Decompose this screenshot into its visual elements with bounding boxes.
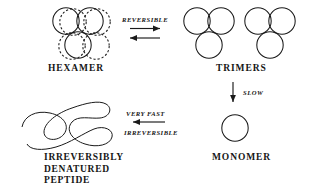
slow-arrow-glyph [230, 82, 236, 102]
monomer-subunit [222, 115, 248, 141]
hexamer-subunit-rear-3 [59, 33, 85, 59]
trimer-2-subunit-2 [269, 8, 295, 34]
label-irreversible: IRREVERSIBLE [124, 129, 178, 136]
reversible-arrow-back-head [130, 35, 137, 41]
denatured-peptide-path [22, 102, 112, 149]
reversible-arrow-forward-head [153, 26, 160, 32]
diagram-canvas: HEXAMER TRIMERS MONOMER IRREVERSIBLY DEN… [0, 0, 309, 194]
label-denatured-line-1: IRREVERSIBLY [44, 152, 124, 164]
label-denatured-peptide: IRREVERSIBLY DENATURED PEPTIDE [44, 152, 124, 187]
trimer-1-subunit-2 [208, 8, 234, 34]
trimer-1-subunits [184, 8, 234, 58]
hexamer-subunit-front-3 [65, 32, 91, 58]
label-denatured-line-2: DENATURED [44, 164, 124, 176]
slow-arrow-head [230, 95, 236, 102]
label-hexamer: HEXAMER [48, 63, 104, 73]
label-monomer: MONOMER [212, 152, 271, 162]
denatured-peptide-coil [22, 102, 112, 149]
trimer-1-subunit-1 [184, 8, 210, 34]
irreversible-arrow-glyph [133, 119, 165, 125]
hexamer-subunit-front-2 [77, 8, 103, 34]
label-slow: SLOW [243, 89, 263, 96]
label-very-fast: VERY FAST [126, 110, 165, 117]
irreversible-arrow-head [133, 119, 140, 125]
hexamer-subunit-front-1 [53, 8, 79, 34]
label-reversible: REVERSIBLE [122, 16, 168, 23]
label-denatured-line-3: PEPTIDE [44, 175, 124, 187]
trimer-2-subunit-1 [245, 8, 271, 34]
trimer-1-subunit-3 [196, 32, 222, 58]
trimer-2-subunits [245, 8, 295, 58]
trimer-2-subunit-3 [257, 32, 283, 58]
reversible-arrow-glyph [130, 26, 160, 41]
hexamer-subunit-rear-2 [84, 9, 110, 35]
hexamer-front-subunits [53, 8, 103, 58]
label-trimers: TRIMERS [216, 63, 267, 73]
